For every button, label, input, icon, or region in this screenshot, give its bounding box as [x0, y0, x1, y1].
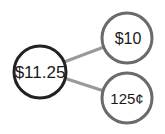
- connector-bottom: [64, 78, 104, 91]
- connector-top: [64, 47, 104, 62]
- part-label-top: $10: [115, 30, 142, 47]
- whole-label: $11.25: [15, 63, 66, 82]
- number-bond-diagram: $11.25 $10 125¢: [0, 0, 165, 134]
- part-label-bottom: 125¢: [110, 90, 143, 107]
- diagram-svg: $11.25 $10 125¢: [0, 0, 165, 134]
